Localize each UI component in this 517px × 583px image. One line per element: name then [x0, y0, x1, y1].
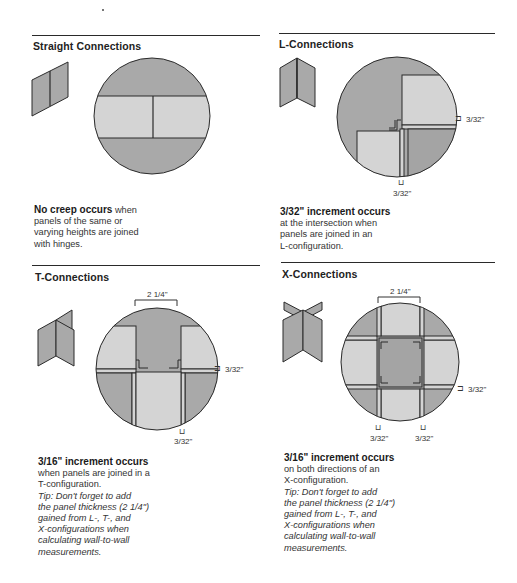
section-description: 3/16" increment occurs on both direction…: [284, 452, 459, 554]
stray-dot: [102, 9, 104, 11]
bottom-right-bracket-icon: ⊔: [420, 423, 426, 432]
description-headline: 3/16" increment occurs: [38, 456, 148, 467]
dimension-right: 3/32": [468, 385, 486, 394]
description-headline: 3/32" increment occurs: [280, 206, 390, 217]
right-bracket-icon: ⊐: [455, 114, 462, 123]
right-bracket-icon: ⊐: [214, 364, 221, 373]
description-headline: No creep occurs: [34, 204, 112, 215]
tip-line: measurements.: [284, 543, 459, 554]
tip-line: calculating wall-to-wall: [38, 535, 213, 546]
description-headline: 3/16" increment occurs: [284, 452, 394, 463]
tip-line: gained from L-, T-, and: [284, 509, 459, 520]
tip-line: gained from L-, T-, and: [38, 513, 213, 524]
dimension-bottom: 3/32": [393, 189, 411, 198]
t-panel-icon: [36, 306, 76, 368]
l-panel-icon: [278, 55, 318, 110]
dimension-top: 2 1/4": [390, 287, 411, 296]
section-title: L-Connections: [279, 38, 354, 50]
tip-line: X-configurations when: [284, 520, 459, 531]
section-title: X-Connections: [282, 268, 357, 280]
tip-line: the panel thickness (2 1/4"): [38, 502, 213, 513]
section-divider: [32, 35, 260, 36]
section-description: 3/32" increment occurs at the intersecti…: [280, 206, 455, 252]
bottom-bracket-icon: ⊔: [179, 427, 185, 436]
x-panel-icon: [282, 300, 324, 364]
dimension-bottom: 3/32": [174, 437, 192, 446]
dimension-bottom-right: 3/32": [415, 434, 433, 443]
section-divider: [32, 265, 260, 266]
section-description: No creep occurs when panels of the same …: [34, 204, 209, 250]
tip-line: the panel thickness (2 1/4"): [284, 498, 459, 509]
l-connection-diagram: [337, 57, 461, 181]
tip-line: calculating wall-to-wall: [284, 531, 459, 542]
straight-connection-diagram: [92, 58, 212, 178]
bottom-bracket-icon: ⊔: [398, 178, 404, 187]
dimension-top: 2 1/4": [147, 290, 168, 299]
dimension-right: 3/32": [225, 365, 243, 374]
section-description: 3/16" increment occurs when panels are j…: [38, 456, 213, 558]
straight-panel-icon: [30, 60, 70, 120]
section-title: Straight Connections: [33, 40, 141, 52]
section-divider: [281, 262, 495, 263]
dimension-right: 3/32": [466, 115, 484, 124]
tip-line: X-configurations when: [38, 524, 213, 535]
dimension-bottom-left: 3/32": [370, 434, 388, 443]
tip-line: measurements.: [38, 547, 213, 558]
section-divider: [279, 33, 495, 34]
tip-line: Tip: Don't forget to add: [38, 491, 213, 502]
tip-line: Tip: Don't forget to add: [284, 487, 459, 498]
bottom-left-bracket-icon: ⊔: [375, 423, 381, 432]
x-connection-diagram: [340, 303, 462, 425]
right-bracket-icon: ⊐: [457, 384, 464, 393]
section-title: T-Connections: [35, 271, 109, 283]
t-connection-diagram: [96, 308, 220, 432]
top-dimension-bracket: [134, 299, 178, 307]
